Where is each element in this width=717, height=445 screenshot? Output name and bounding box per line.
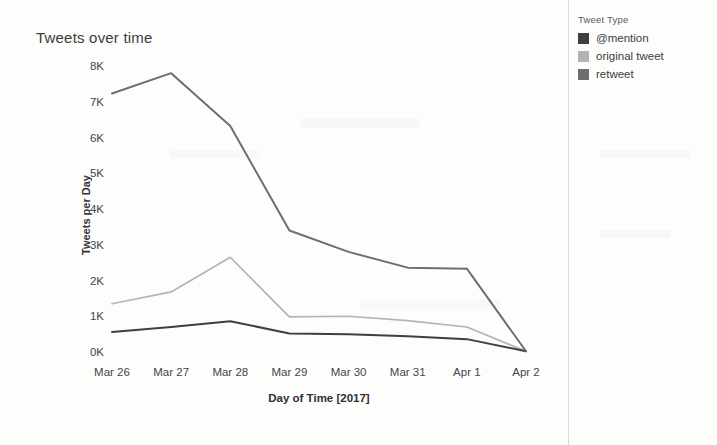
- series-line: [112, 321, 526, 351]
- legend-item-label: retweet: [596, 68, 634, 80]
- legend-item-label: original tweet: [596, 50, 664, 62]
- legend-swatch-icon: [578, 69, 589, 80]
- legend-items: @mentionoriginal tweetretweet: [578, 31, 710, 81]
- legend-item[interactable]: original tweet: [578, 49, 710, 63]
- x-tick-label: Mar 28: [212, 366, 248, 378]
- x-tick-label: Apr 1: [453, 366, 481, 378]
- x-tick-label: Mar 30: [331, 366, 367, 378]
- legend-swatch-icon: [578, 51, 589, 62]
- legend-panel: Tweet Type @mentionoriginal tweetretweet: [578, 14, 710, 85]
- chart-panel: Tweets over time Tweets per Day 8K7K6K5K…: [0, 0, 568, 445]
- legend-swatch-icon: [578, 33, 589, 44]
- series-line: [112, 73, 526, 351]
- legend-divider: [568, 0, 569, 445]
- x-axis-title: Day of Time [2017]: [112, 392, 526, 404]
- legend-item[interactable]: retweet: [578, 67, 710, 81]
- x-axis-tick-labels: Mar 26Mar 27Mar 28Mar 29Mar 30Mar 31Apr …: [0, 366, 568, 384]
- x-tick-label: Mar 27: [153, 366, 189, 378]
- x-tick-label: Mar 26: [94, 366, 130, 378]
- x-tick-label: Mar 31: [390, 366, 426, 378]
- x-tick-label: Apr 2: [512, 366, 540, 378]
- legend-item[interactable]: @mention: [578, 31, 710, 45]
- series-line: [112, 257, 526, 351]
- legend-item-label: @mention: [596, 32, 649, 44]
- x-tick-label: Mar 29: [272, 366, 308, 378]
- legend-title: Tweet Type: [578, 14, 710, 25]
